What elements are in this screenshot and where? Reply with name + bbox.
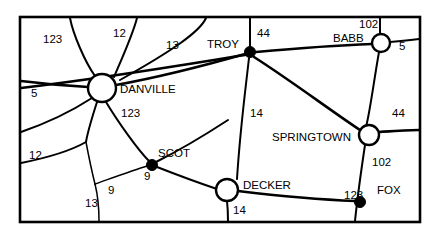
route-number-label-102-11: 102 xyxy=(372,156,391,168)
route-number-label-9-13: 9 xyxy=(108,184,114,196)
city-label-decker: DECKER xyxy=(243,179,291,191)
route-number-label-5-6: 5 xyxy=(31,87,37,99)
route-number-label-12-1: 12 xyxy=(113,27,126,39)
route-number-label-13-14: 13 xyxy=(85,197,98,209)
route-number-label-123-16: 123 xyxy=(344,189,363,201)
road-decker-14-south xyxy=(227,201,228,221)
city-marker-babb[interactable] xyxy=(372,34,390,52)
city-marker-scot[interactable] xyxy=(147,160,158,171)
route-number-label-5-5: 5 xyxy=(399,40,405,52)
city-marker-danville[interactable] xyxy=(88,74,116,102)
city-label-danville: DANVILLE xyxy=(120,83,176,95)
city-label-babb: BABB xyxy=(333,32,364,44)
city-label-troy: TROY xyxy=(207,38,239,50)
route-number-label-14-15: 14 xyxy=(233,204,246,216)
route-number-label-12-10: 12 xyxy=(29,149,42,161)
city-label-fox: FOX xyxy=(377,184,401,196)
route-number-label-123-0: 123 xyxy=(43,33,62,45)
map-canvas: DANVILLETROYBABBSPRINGTOWNSCOTDECKERFOX … xyxy=(0,0,438,237)
city-label-springtown: SPRINGTOWN xyxy=(272,131,351,143)
route-number-label-44-9: 44 xyxy=(392,107,405,119)
route-number-label-13-2: 13 xyxy=(166,39,179,51)
road-map: DANVILLETROYBABBSPRINGTOWNSCOTDECKERFOX … xyxy=(0,0,438,237)
route-number-label-9-12: 9 xyxy=(144,170,150,182)
route-number-label-44-3: 44 xyxy=(257,27,270,39)
map-background xyxy=(0,0,438,237)
route-number-label-123-7: 123 xyxy=(121,107,140,119)
city-label-scot: SCOT xyxy=(158,147,190,159)
city-marker-springtown[interactable] xyxy=(359,125,379,145)
route-number-label-14-8: 14 xyxy=(250,107,263,119)
city-marker-decker[interactable] xyxy=(216,179,238,201)
city-marker-troy[interactable] xyxy=(245,47,256,58)
route-number-label-102-4: 102 xyxy=(359,18,378,30)
